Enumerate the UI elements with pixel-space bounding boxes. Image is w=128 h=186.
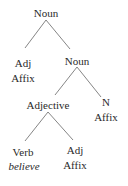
edge-root-noun xyxy=(46,20,70,49)
node-adj2-label: Adj xyxy=(67,144,84,156)
edge-root-adj xyxy=(25,20,46,48)
node-verb-label: Verb xyxy=(13,146,34,158)
node-noun: Noun xyxy=(65,55,89,67)
edge-noun-n xyxy=(77,67,101,97)
node-n-affix: Affix xyxy=(94,111,118,123)
node-adj2-affix: Affix xyxy=(63,159,87,171)
edge-noun-adjective xyxy=(55,67,77,95)
edge-adjective-adj xyxy=(48,112,73,140)
node-adj-affix: Affix xyxy=(11,72,35,84)
node-root-noun: Noun xyxy=(34,7,58,19)
node-adj-label: Adj xyxy=(15,57,32,69)
edge-adjective-verb xyxy=(25,112,48,141)
node-verb-word: believe xyxy=(8,160,39,172)
node-adjective: Adjective xyxy=(27,99,70,111)
node-n-label: N xyxy=(102,96,110,108)
